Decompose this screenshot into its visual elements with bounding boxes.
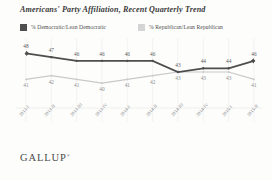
chart-card: Americans' Party Affiliation, Recent Qua… <box>0 0 272 180</box>
democratic-endpoint-arrow <box>26 51 29 56</box>
republican-value-label: 43 <box>175 75 180 81</box>
republican-point <box>202 71 204 73</box>
republican-line <box>26 72 254 83</box>
democratic-markers <box>25 52 255 73</box>
republican-value-label: 41 <box>251 82 256 88</box>
democratic-value-label: 43 <box>175 62 180 68</box>
democratic-point <box>202 67 204 69</box>
legend-swatch-democratic-icon <box>20 24 27 31</box>
democratic-point <box>126 60 128 62</box>
gallup-logo-mark: ® <box>67 153 71 158</box>
republican-value-label: 42 <box>150 79 155 85</box>
democratic-line <box>26 53 254 72</box>
democratic-value-label: 44 <box>201 58 206 64</box>
democratic-point <box>50 56 52 58</box>
republican-value-label: 43 <box>201 75 206 81</box>
republican-point <box>76 79 78 81</box>
republican-point <box>152 75 154 77</box>
legend-label-democratic: % Democratic/Lean Democratic <box>31 24 106 30</box>
legend-item-democratic: % Democratic/Lean Democratic <box>20 22 106 32</box>
legend-item-republican: % Republican/Lean Republican <box>138 22 223 32</box>
republican-point <box>50 75 52 77</box>
republican-value-label: 41 <box>74 82 79 88</box>
republican-point <box>253 79 255 81</box>
x-axis-labels: 2013-I2013-II2013-III2013-IV2014-I2014-I… <box>0 108 272 140</box>
republican-value-label: 41 <box>23 82 28 88</box>
republican-point <box>101 82 103 84</box>
democratic-value-label: 46 <box>125 51 130 57</box>
democratic-value-label: 47 <box>49 47 54 53</box>
republican-value-label: 42 <box>49 79 54 85</box>
republican-point <box>25 79 27 81</box>
democratic-value-label: 46 <box>150 51 155 57</box>
republican-point <box>126 79 128 81</box>
legend-label-republican: % Republican/Lean Republican <box>149 24 223 30</box>
gallup-logo: GALLUP® <box>20 152 71 163</box>
democratic-value-label: 46 <box>99 51 104 57</box>
gallup-logo-text: GALLUP <box>20 152 67 163</box>
democratic-point <box>177 71 179 73</box>
legend-swatch-republican-icon <box>138 24 145 31</box>
democratic-value-label: 48 <box>23 43 28 49</box>
democratic-point <box>101 60 103 62</box>
republican-point <box>228 71 230 73</box>
democratic-value-label: 46 <box>251 51 256 57</box>
democratic-value-label: 44 <box>226 58 231 64</box>
republican-value-label: 43 <box>226 75 231 81</box>
republican-value-label: 40 <box>99 86 104 92</box>
democratic-value-label: 46 <box>74 51 79 57</box>
democratic-point <box>151 60 153 62</box>
chart-legend: % Democratic/Lean Democratic % Republica… <box>20 22 260 32</box>
democratic-point <box>75 60 77 62</box>
democratic-endpoint-arrow <box>251 58 254 63</box>
chart-title: Americans' Party Affiliation, Recent Qua… <box>20 5 206 14</box>
democratic-point <box>227 67 229 69</box>
republican-value-label: 41 <box>125 82 130 88</box>
